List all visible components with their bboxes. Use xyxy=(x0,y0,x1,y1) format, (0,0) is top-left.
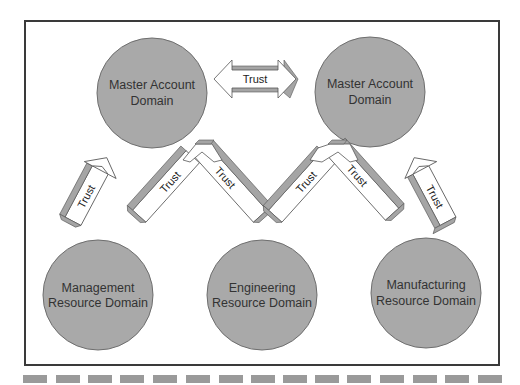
trust-arrow-management-to-master: Trust xyxy=(55,149,122,233)
dash-segment xyxy=(283,375,307,383)
dash-segment xyxy=(186,375,210,383)
dash-segment xyxy=(88,375,112,383)
dash-segment xyxy=(413,375,437,383)
trust-arrow-manufacturing-to-master: Trust xyxy=(397,149,465,233)
node-label: Resource Domain xyxy=(212,296,312,310)
node-label: Master Account xyxy=(327,77,414,91)
node-label: Engineering xyxy=(229,281,296,295)
node-label: Manufacturing xyxy=(386,278,465,292)
node-engineering-resource: Engineering Resource Domain xyxy=(207,240,317,350)
node-manufacturing-resource: Manufacturing Resource Domain xyxy=(371,238,481,348)
dash-segment xyxy=(380,375,404,383)
dash-segment xyxy=(445,375,469,383)
dash-segment xyxy=(219,375,243,383)
trust-label: Trust xyxy=(243,73,268,85)
node-management-resource: Management Resource Domain xyxy=(43,240,153,350)
trust-diagram: Master Account Domain Master Account Dom… xyxy=(0,0,520,385)
dashed-divider xyxy=(0,375,520,384)
dash-segment xyxy=(23,375,47,383)
node-label: Domain xyxy=(348,93,391,107)
trust-arrow-master-bidirectional: Trust xyxy=(214,60,298,98)
dash-segment xyxy=(153,375,177,383)
dash-segment xyxy=(251,375,275,383)
node-master-account-1: Master Account Domain xyxy=(97,38,207,148)
node-label: Resource Domain xyxy=(376,294,476,308)
node-label: Resource Domain xyxy=(48,296,148,310)
dash-segment xyxy=(315,375,339,383)
node-master-account-2: Master Account Domain xyxy=(315,37,425,147)
dash-segment xyxy=(478,375,502,383)
node-label: Master Account xyxy=(109,78,196,92)
node-label: Domain xyxy=(130,94,173,108)
dash-segment xyxy=(347,375,371,383)
dash-segment xyxy=(56,375,80,383)
node-label: Management xyxy=(62,281,135,295)
dash-segment xyxy=(120,375,144,383)
